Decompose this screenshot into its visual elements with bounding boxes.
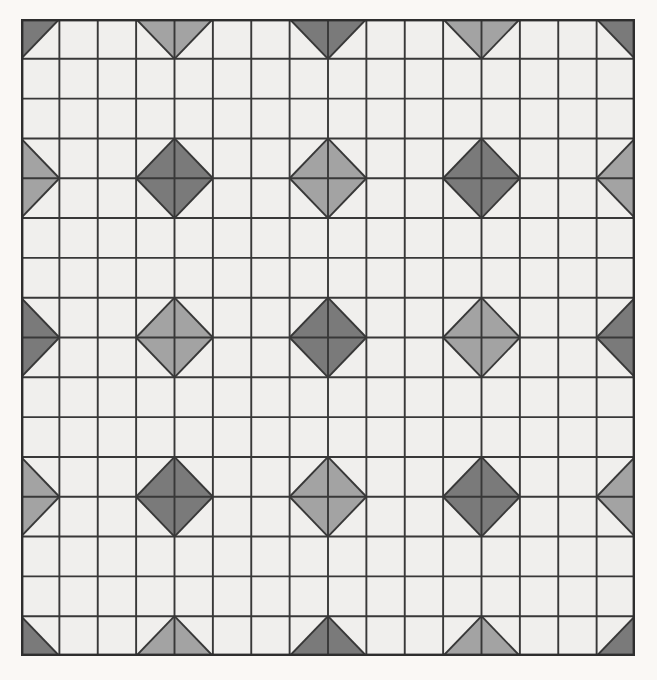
quilt-cell (597, 537, 635, 577)
quilt-cell (21, 218, 59, 258)
cell-background (21, 218, 59, 258)
cell-background (482, 377, 520, 417)
cell-background (251, 258, 289, 298)
quilt-cell (21, 497, 59, 537)
quilt-cell (597, 138, 635, 178)
cell-background (405, 298, 443, 338)
cell-background (290, 537, 328, 577)
cell-background (98, 218, 136, 258)
cell-background (251, 138, 289, 178)
quilt-cell (328, 616, 366, 656)
cell-background (98, 178, 136, 218)
quilt-cell (175, 99, 213, 139)
quilt-cell (558, 457, 596, 497)
quilt-cell (251, 258, 289, 298)
quilt-cell (175, 298, 213, 338)
cell-background (405, 258, 443, 298)
quilt-cell (290, 457, 328, 497)
quilt-cell (443, 537, 481, 577)
quilt-cell (21, 59, 59, 99)
quilt-cell (443, 59, 481, 99)
cell-background (175, 576, 213, 616)
cell-background (520, 377, 558, 417)
quilt-cell (443, 218, 481, 258)
cell-background (251, 338, 289, 378)
quilt-cell (98, 99, 136, 139)
quilt-cell (213, 99, 251, 139)
quilt-cell (405, 218, 443, 258)
quilt-cell (136, 417, 174, 457)
quilt-cell (251, 178, 289, 218)
cell-background (98, 417, 136, 457)
quilt-cell (405, 338, 443, 378)
quilt-cell (405, 258, 443, 298)
quilt-cell (59, 616, 97, 656)
cell-background (175, 59, 213, 99)
cell-background (597, 99, 635, 139)
cell-background (98, 19, 136, 59)
cell-background (98, 576, 136, 616)
quilt-cell (59, 417, 97, 457)
quilt-cell (175, 497, 213, 537)
quilt-cell (558, 417, 596, 457)
quilt-cell (328, 537, 366, 577)
cell-background (251, 377, 289, 417)
cell-background (251, 497, 289, 537)
quilt-cell (558, 377, 596, 417)
quilt-cell (175, 576, 213, 616)
quilt-cell (520, 497, 558, 537)
quilt-cell (366, 99, 404, 139)
cell-background (482, 417, 520, 457)
quilt-cell (175, 338, 213, 378)
quilt-cell (136, 576, 174, 616)
cell-background (175, 377, 213, 417)
quilt-cell (59, 258, 97, 298)
quilt-cell (213, 298, 251, 338)
cell-background (558, 616, 596, 656)
quilt-cell (520, 19, 558, 59)
cell-background (251, 298, 289, 338)
quilt-cell (597, 377, 635, 417)
cell-background (520, 417, 558, 457)
quilt-cell (482, 99, 520, 139)
quilt-cell (21, 417, 59, 457)
quilt-cell (136, 19, 174, 59)
quilt-cell (136, 218, 174, 258)
cell-background (366, 616, 404, 656)
quilt-cell (597, 19, 635, 59)
cell-background (98, 338, 136, 378)
cell-background (98, 258, 136, 298)
quilt-svg (21, 19, 635, 656)
quilt-cell (520, 417, 558, 457)
cell-background (251, 19, 289, 59)
quilt-cell (597, 59, 635, 99)
cell-background (328, 218, 366, 258)
quilt-cell (520, 457, 558, 497)
cell-background (366, 298, 404, 338)
quilt-cell (366, 178, 404, 218)
quilt-cell (558, 19, 596, 59)
quilt-cell (328, 59, 366, 99)
cell-background (520, 138, 558, 178)
cell-background (59, 218, 97, 258)
cell-background (136, 99, 174, 139)
quilt-cell (175, 457, 213, 497)
cell-background (405, 417, 443, 457)
quilt-cell (59, 338, 97, 378)
quilt-cell (366, 457, 404, 497)
quilt-cell (59, 377, 97, 417)
cell-background (136, 537, 174, 577)
cell-background (520, 616, 558, 656)
quilt-cell (405, 377, 443, 417)
cell-background (59, 19, 97, 59)
cell-background (366, 258, 404, 298)
cell-background (213, 537, 251, 577)
quilt-cell (558, 576, 596, 616)
quilt-cell (405, 457, 443, 497)
cell-background (328, 59, 366, 99)
cell-background (366, 537, 404, 577)
quilt-cell (21, 178, 59, 218)
quilt-cell (98, 19, 136, 59)
quilt-cell (405, 178, 443, 218)
quilt-cell (213, 616, 251, 656)
